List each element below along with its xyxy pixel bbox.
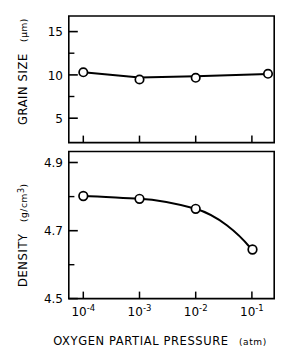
density-point-3	[191, 205, 200, 214]
density-ytick-label-4p7: 4.7	[44, 224, 63, 238]
xtick-exponent-1: -4	[87, 303, 95, 313]
density-point-1	[79, 192, 88, 201]
grain-size-y-axis-title-main: GRAIN SIZE	[16, 53, 30, 125]
svg-text:DENSITY (g/cm3): DENSITY (g/cm3)	[16, 183, 30, 287]
density-point-4	[248, 245, 257, 254]
x-axis-title-main: OXYGEN PARTIAL PRESSURE	[53, 334, 229, 348]
xtick-base-1: 10	[71, 305, 86, 319]
density-y-axis-title-unit-pre: (g/cm	[19, 193, 29, 222]
two-panel-scientific-chart: 15 10 5 GRAIN SIZE (μm)	[0, 0, 289, 360]
xtick-base-3: 10	[184, 305, 199, 319]
grain-size-y-axis-title: GRAIN SIZE (μm)	[16, 18, 30, 125]
grain-size-y-axis-title-unit: (μm)	[19, 18, 29, 42]
xtick-exponent-2: -3	[143, 303, 151, 313]
grain-size-point-1	[79, 68, 87, 76]
figure-container: 15 10 5 GRAIN SIZE (μm)	[0, 0, 289, 360]
xtick-base-2: 10	[128, 305, 143, 319]
density-y-axis-title: DENSITY (g/cm3)	[16, 183, 30, 287]
density-y-axis-title-unit-post: )	[19, 183, 29, 187]
grain-size-ytick-label-10: 10	[48, 69, 63, 83]
grain-size-point-3	[192, 74, 200, 82]
grain-size-ytick-label-5: 5	[55, 112, 63, 126]
xtick-base-4: 10	[240, 305, 255, 319]
xtick-exponent-3: -2	[199, 303, 207, 313]
density-point-2	[135, 195, 144, 204]
xtick-exponent-4: -1	[255, 303, 263, 313]
grain-size-ytick-label-15: 15	[48, 25, 63, 39]
x-axis-title-unit: (atm)	[239, 337, 267, 347]
density-ytick-label-4p5: 4.5	[44, 292, 63, 306]
density-ytick-label-4p9: 4.9	[44, 156, 63, 170]
grain-size-point-4	[264, 70, 272, 78]
svg-text:GRAIN SIZE (μm): GRAIN SIZE (μm)	[16, 18, 30, 125]
density-y-axis-title-main: DENSITY	[16, 233, 30, 287]
grain-size-point-2	[135, 75, 143, 83]
